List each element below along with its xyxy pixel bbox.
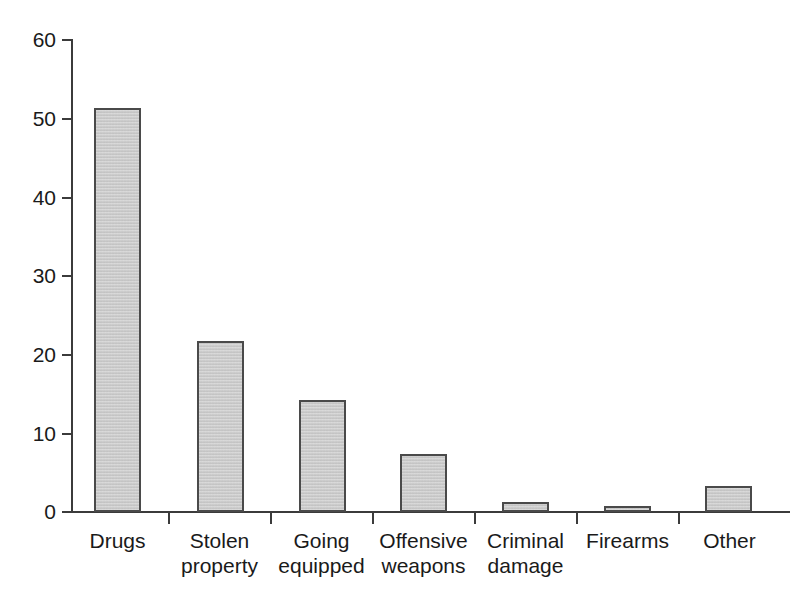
y-tick-label-10: 10 [24,423,56,444]
bar-firearms [604,506,651,512]
y-tick-label-60: 60 [24,29,56,50]
y-tick-mark-20 [62,354,72,356]
x-category-label-line1: Firearms [577,528,678,553]
x-category-label-line2: damage [475,553,576,578]
x-category-label-firearms: Firearms [577,528,678,553]
x-category-label-line1: Going [271,528,372,553]
bar-offensive-weapons [400,454,447,512]
bar-chart: 60 50 40 30 20 10 0 Drugs Stolen propert… [0,0,802,603]
y-tick-mark-10 [62,433,72,435]
x-category-label-going-equipped: Going equipped [271,528,372,578]
x-category-label-criminal-damage: Criminal damage [475,528,576,578]
x-tick-mark-1 [168,513,170,524]
bar-drugs [94,108,141,512]
x-category-label-line1: Stolen [169,528,270,553]
x-category-label-line1: Drugs [67,528,168,553]
x-category-label-offensive-weapons: Offensive weapons [373,528,474,578]
bar-going-equipped [299,400,346,512]
y-tick-label-30: 30 [24,265,56,286]
x-tick-mark-2 [270,513,272,524]
x-category-label-line1: Offensive [373,528,474,553]
y-tick-label-50: 50 [24,108,56,129]
bar-stolen-property [197,341,244,512]
x-category-label-line2: equipped [271,553,372,578]
x-category-label-stolen-property: Stolen property [169,528,270,578]
x-category-label-other: Other [679,528,780,553]
x-tick-mark-5 [576,513,578,524]
x-tick-mark-3 [372,513,374,524]
bar-criminal-damage [502,502,549,512]
x-category-label-line1: Other [679,528,780,553]
y-tick-mark-60 [62,39,72,41]
y-tick-label-0: 0 [24,501,56,522]
y-tick-mark-30 [62,275,72,277]
x-category-label-line1: Criminal [475,528,576,553]
x-tick-mark-4 [474,513,476,524]
y-tick-label-40: 40 [24,187,56,208]
bar-other [705,486,752,512]
y-tick-mark-50 [62,118,72,120]
y-tick-mark-0 [62,511,72,513]
x-category-label-line2: property [169,553,270,578]
x-tick-mark-6 [678,513,680,524]
y-tick-label-20: 20 [24,344,56,365]
x-category-label-line2: weapons [373,553,474,578]
y-tick-mark-40 [62,197,72,199]
x-category-label-drugs: Drugs [67,528,168,553]
